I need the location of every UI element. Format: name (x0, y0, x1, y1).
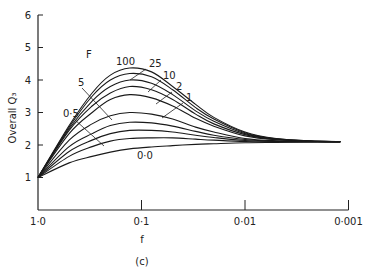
x-tick-label: 0·1 (134, 216, 150, 227)
y-axis-label: Overall Q₃ (7, 93, 18, 144)
x-tick-label: 0·01 (234, 216, 256, 227)
chart-figure: 1234561·00·10·010·001 10025102150·50·0F … (0, 0, 368, 273)
curve-label: 0·5 (63, 108, 79, 119)
y-tick-label: 4 (25, 75, 31, 86)
curve-label: 5 (78, 77, 84, 88)
y-tick-label: 2 (25, 140, 31, 151)
curve-label: 0·0 (137, 150, 153, 161)
x-tick-label: 1·0 (30, 216, 46, 227)
leader-line (162, 103, 183, 118)
curve-label: 2 (176, 81, 182, 92)
curve-label: 100 (116, 56, 135, 67)
curve-label: 25 (149, 58, 162, 69)
line-chart: 1234561·00·10·010·001 10025102150·50·0F … (0, 0, 368, 273)
curve-F-0.0 (38, 142, 340, 178)
figure-caption: (c) (135, 256, 148, 267)
leader-line (82, 88, 112, 120)
x-axis-label: f (140, 234, 144, 245)
y-tick-label: 3 (25, 107, 31, 118)
curve-F-unlabeled (38, 130, 340, 177)
y-tick-label: 6 (25, 10, 31, 21)
x-tick-label: 0·001 (334, 216, 363, 227)
curve-label: 1 (186, 92, 192, 103)
y-tick-label: 5 (25, 42, 31, 53)
y-tick-label: 1 (25, 172, 31, 183)
curve-label: F (86, 49, 92, 60)
curve-label: 10 (163, 70, 176, 81)
